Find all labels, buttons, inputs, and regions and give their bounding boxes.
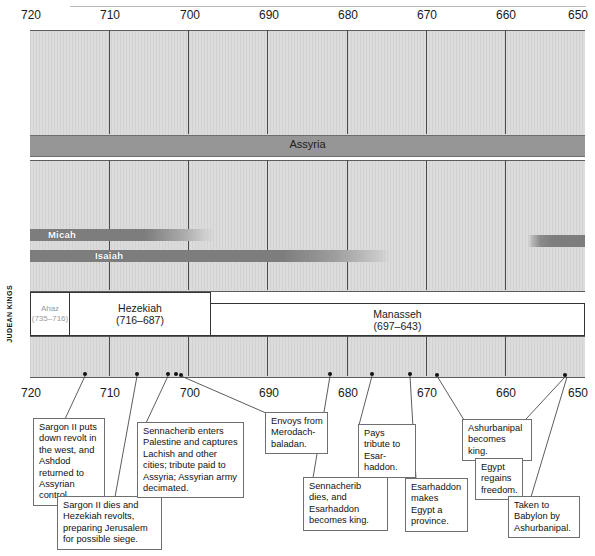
band-lower bbox=[30, 336, 585, 378]
event-marker-681[interactable] bbox=[328, 372, 332, 376]
gridline-670-upper bbox=[426, 30, 427, 134]
callout-sennacherib-enters[interactable]: Sennacherib enters Palestine and capture… bbox=[137, 422, 244, 498]
gridline-690-middle bbox=[267, 160, 268, 290]
callout-sargon-revolt[interactable]: Sargon II puts down revolt in the west, … bbox=[33, 418, 105, 506]
isaiah-prophet-bar: Isaiah bbox=[30, 250, 390, 262]
king-hezekiah-years: (716–687) bbox=[116, 314, 164, 326]
king-ahaz: Ahaz (735–716) bbox=[30, 292, 70, 336]
gridline-710-lower bbox=[109, 336, 110, 376]
band-upper bbox=[30, 30, 585, 136]
top-axis-tick-670: 670 bbox=[417, 8, 437, 22]
event-marker-703[interactable] bbox=[166, 372, 170, 376]
gridline-700-lower bbox=[188, 336, 189, 376]
gridline-660-lower bbox=[505, 336, 506, 376]
bottom-axis-tick-690: 690 bbox=[259, 386, 279, 400]
event-marker-713[interactable] bbox=[83, 372, 87, 376]
top-axis-tick-650: 650 bbox=[568, 8, 588, 22]
bottom-axis-tick-670: 670 bbox=[417, 386, 437, 400]
gridline-660-upper bbox=[505, 30, 506, 134]
callout-esarhaddon-egypt[interactable]: Esarhaddon makes Egypt a province. bbox=[405, 478, 468, 532]
trailing-prophet-bar bbox=[528, 235, 585, 247]
judean-kings-text: JUDEAN KINGS bbox=[6, 285, 13, 343]
gridline-680-lower bbox=[347, 336, 348, 376]
event-marker-671[interactable] bbox=[408, 372, 412, 376]
king-manasseh: Manasseh (697–643) bbox=[210, 303, 585, 336]
gridline-680-middle bbox=[347, 160, 348, 290]
gridline-670-lower bbox=[426, 336, 427, 376]
isaiah-label: Isaiah bbox=[95, 250, 123, 262]
bottom-axis-tick-660: 660 bbox=[496, 386, 516, 400]
gridline-690-upper bbox=[267, 30, 268, 134]
king-hezekiah-name: Hezekiah bbox=[118, 302, 162, 314]
event-marker-676[interactable] bbox=[370, 372, 374, 376]
king-manasseh-years: (697–643) bbox=[374, 320, 422, 332]
band-middle bbox=[30, 160, 585, 292]
gridline-700-middle bbox=[188, 160, 189, 290]
gridline-710-upper bbox=[109, 30, 110, 134]
timeline-chart: 720 710 700 690 680 670 660 650 Assyria … bbox=[0, 0, 595, 556]
callout-envoys[interactable]: Envoys from Merodach-baladan. bbox=[265, 412, 328, 454]
king-ahaz-years: (735–716) bbox=[32, 314, 68, 324]
bottom-axis-tick-700: 700 bbox=[180, 386, 200, 400]
top-axis-tick-720: 720 bbox=[21, 8, 41, 22]
assyria-era-bar: Assyria bbox=[30, 135, 585, 157]
gridline-670-middle bbox=[426, 160, 427, 290]
top-axis-tick-690: 690 bbox=[259, 8, 279, 22]
gridline-710-middle bbox=[109, 160, 110, 290]
micah-label: Micah bbox=[48, 229, 76, 241]
callout-sargon-dies[interactable]: Sargon II dies and Hezekiah revolts, pre… bbox=[57, 496, 162, 550]
gridline-700-upper bbox=[188, 30, 189, 134]
bottom-axis-tick-650: 650 bbox=[568, 386, 588, 400]
top-rule bbox=[70, 6, 586, 7]
event-marker-707[interactable] bbox=[135, 372, 139, 376]
top-axis-tick-700: 700 bbox=[180, 8, 200, 22]
gridline-660-middle bbox=[505, 160, 506, 290]
assyria-label: Assyria bbox=[30, 138, 585, 150]
bottom-axis-tick-720: 720 bbox=[21, 386, 41, 400]
top-axis-tick-680: 680 bbox=[338, 8, 358, 22]
judean-kings-row: Ahaz (735–716) Hezekiah (716–687) Manass… bbox=[30, 292, 585, 336]
king-ahaz-name: Ahaz bbox=[41, 304, 59, 314]
micah-prophet-bar: Micah bbox=[30, 229, 215, 241]
callout-ashurbanipal-king[interactable]: Ashurbanipal becomes king. bbox=[462, 419, 532, 461]
king-hezekiah: Hezekiah (716–687) bbox=[69, 292, 211, 336]
event-marker-651[interactable] bbox=[563, 373, 567, 377]
bottom-axis-tick-710: 710 bbox=[100, 386, 120, 400]
king-manasseh-name: Manasseh bbox=[373, 308, 421, 320]
judean-kings-axis-label: JUDEAN KINGS bbox=[2, 292, 16, 336]
callout-egypt-free[interactable]: Egypt regains freedom. bbox=[475, 458, 523, 500]
top-axis-tick-660: 660 bbox=[496, 8, 516, 22]
event-marker-702[interactable] bbox=[174, 372, 178, 376]
callout-sennacherib-dies[interactable]: Sennacherib dies, and Esarhaddon becomes… bbox=[303, 477, 388, 531]
gridline-690-lower bbox=[267, 336, 268, 376]
callout-taken-babylon[interactable]: Taken to Babylon by Ashurbanipal. bbox=[508, 496, 580, 538]
callout-pays-tribute[interactable]: Pays tribute to Esar-haddon. bbox=[358, 424, 416, 478]
gridline-680-upper bbox=[347, 30, 348, 134]
bottom-axis-tick-680: 680 bbox=[338, 386, 358, 400]
event-marker-701[interactable] bbox=[179, 373, 183, 377]
event-marker-668[interactable] bbox=[435, 373, 439, 377]
top-axis-tick-710: 710 bbox=[100, 8, 120, 22]
